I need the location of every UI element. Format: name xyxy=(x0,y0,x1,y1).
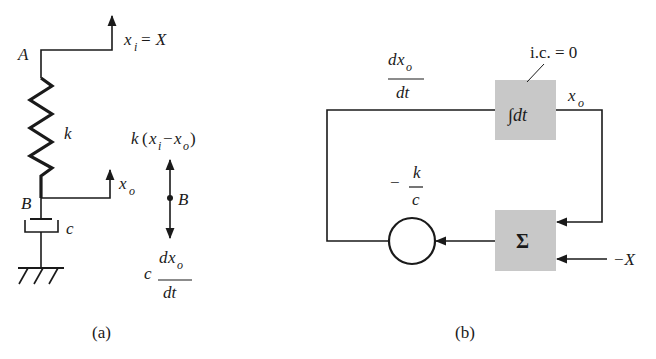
free-body-diagram xyxy=(167,160,173,238)
gain-block xyxy=(389,218,435,264)
svg-text:k: k xyxy=(413,163,421,182)
svg-text:dt: dt xyxy=(163,283,178,302)
spring-label: k xyxy=(64,124,72,143)
svg-text:o: o xyxy=(177,258,183,272)
spring-icon xyxy=(30,78,52,198)
fbd-node-label: B xyxy=(178,190,189,209)
external-input-label: −X xyxy=(613,250,635,269)
svg-text:x: x xyxy=(567,86,576,105)
svg-text:i: i xyxy=(134,40,137,54)
svg-text:x: x xyxy=(396,50,405,69)
svg-text:dt: dt xyxy=(396,83,411,102)
caption-b: (b) xyxy=(455,323,475,342)
svg-text:o: o xyxy=(183,139,189,153)
svg-text:x: x xyxy=(173,129,182,148)
svg-text:x: x xyxy=(118,174,127,193)
ground-icon xyxy=(18,268,64,284)
initial-condition-label: i.c. = 0 xyxy=(530,43,577,62)
caption-a: (a) xyxy=(92,323,111,342)
svg-text:c: c xyxy=(144,264,152,283)
svg-text:x: x xyxy=(123,30,132,49)
output-label: x o xyxy=(118,174,135,198)
svg-text:c: c xyxy=(412,190,420,209)
svg-text:i: i xyxy=(158,139,161,153)
svg-text:(: ( xyxy=(142,129,148,148)
svg-text:x: x xyxy=(167,248,176,267)
summer-label: Σ xyxy=(516,230,529,252)
point-b-label: B xyxy=(21,194,32,213)
output-lead-line xyxy=(41,170,110,198)
svg-text:= X: = X xyxy=(140,30,167,49)
ic-leader-line xyxy=(527,64,544,82)
integrator-output-label: x o xyxy=(567,86,584,110)
integrator-output-line xyxy=(556,110,602,222)
input-lead-line xyxy=(41,16,112,78)
integrator-label: ∫dt xyxy=(507,105,528,126)
svg-text:): ) xyxy=(190,129,196,148)
node-b-dot xyxy=(167,195,173,201)
input-label: x i = X xyxy=(123,30,167,54)
figure-a xyxy=(18,16,173,284)
svg-text:o: o xyxy=(578,96,584,110)
diagram-canvas: A B k c x i = X x o B k ( x i − x o ) c … xyxy=(0,0,656,359)
svg-text:o: o xyxy=(406,60,412,74)
gain-label: − k c xyxy=(390,163,423,209)
damper-force-label: c d x o dt xyxy=(144,248,192,302)
spring-force-label: k ( x i − x o ) xyxy=(131,129,196,153)
svg-text:−: − xyxy=(390,173,400,192)
svg-text:d: d xyxy=(388,50,397,69)
svg-text:k: k xyxy=(131,129,139,148)
svg-text:−: − xyxy=(163,129,173,148)
point-a-label: A xyxy=(17,45,29,64)
svg-text:x: x xyxy=(148,129,157,148)
damper-label: c xyxy=(66,219,74,238)
figure-b xyxy=(327,110,607,264)
rate-label: d x o dt xyxy=(388,50,424,102)
svg-text:o: o xyxy=(129,184,135,198)
svg-text:d: d xyxy=(159,248,168,267)
